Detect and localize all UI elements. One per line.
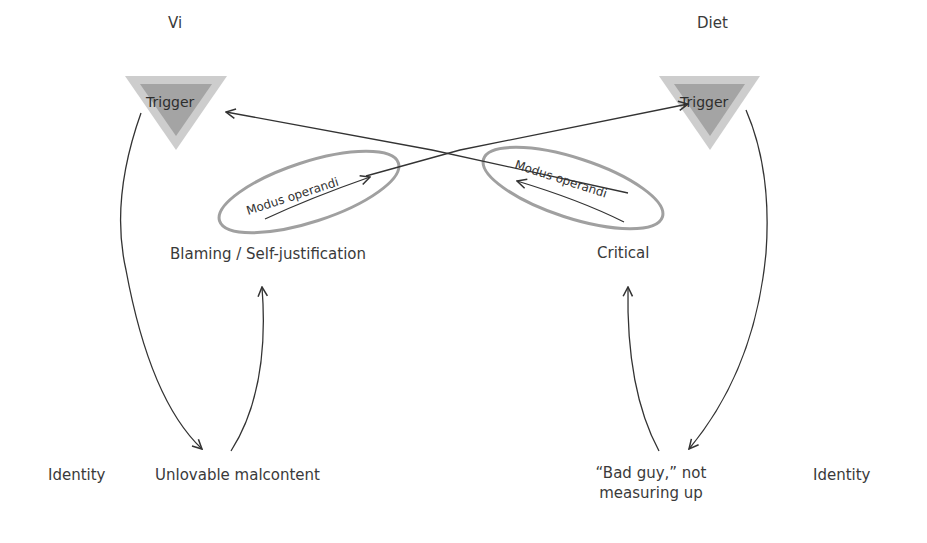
left-identity-value: Unlovable malcontent (155, 465, 320, 485)
right-trigger-to-identity-arrow (689, 110, 767, 449)
right-identity-value: “Bad guy,” not measuring up (576, 463, 726, 503)
right-identity-value-line1: “Bad guy,” not (576, 463, 726, 483)
left-trigger-to-identity-arrow (121, 113, 202, 449)
left-title: Vi (168, 13, 182, 33)
right-identity-label: Identity (813, 465, 871, 485)
right-title: Diet (697, 13, 728, 33)
left-trigger-triangle (125, 76, 227, 150)
diagram-canvas: Modus operandi Modus operandi (0, 0, 927, 543)
right-behavior: Critical (597, 243, 649, 263)
left-behavior: Blaming / Self-justification (170, 244, 366, 264)
left-trigger-label: Trigger (146, 94, 194, 110)
left-identity-label: Identity (48, 465, 106, 485)
right-trigger-triangle (659, 76, 760, 150)
left-identity-to-behavior-arrow (231, 287, 263, 451)
right-trigger-label: Trigger (680, 94, 728, 110)
right-identity-value-line2: measuring up (576, 483, 726, 503)
right-identity-to-behavior-arrow (628, 287, 659, 451)
